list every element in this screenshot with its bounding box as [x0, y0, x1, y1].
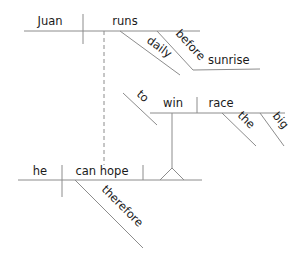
- word-to: to: [134, 87, 152, 105]
- word-he: he: [33, 164, 47, 178]
- pedestal-triangle: [160, 168, 184, 180]
- word-juan: Juan: [36, 14, 62, 28]
- word-race: race: [208, 96, 233, 110]
- word-the: the: [235, 108, 258, 131]
- word-before: before: [173, 26, 208, 63]
- word-runs: runs: [112, 14, 137, 28]
- sentence-diagram: Juan runs daily before sunrise to win ra…: [0, 0, 301, 263]
- word-therefore: therefore: [99, 182, 146, 229]
- sunrise-object-line: [193, 69, 260, 70]
- word-can-hope: can hope: [75, 164, 128, 178]
- word-big: big: [270, 109, 292, 132]
- word-win: win: [163, 96, 183, 110]
- word-sunrise: sunrise: [208, 53, 250, 67]
- word-daily: daily: [144, 33, 175, 61]
